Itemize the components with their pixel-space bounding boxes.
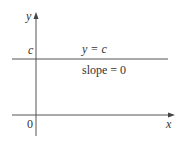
x-axis-label: x xyxy=(165,117,172,131)
slope-label: slope = 0 xyxy=(82,63,126,77)
intercept-label: c xyxy=(28,43,34,57)
equation-label: y = c xyxy=(81,42,107,56)
constant-function-graph: y c y = c slope = 0 0 x xyxy=(0,0,183,142)
y-axis-label: y xyxy=(25,9,32,23)
origin-label: 0 xyxy=(27,117,33,131)
y-axis-arrow-icon xyxy=(34,12,39,19)
